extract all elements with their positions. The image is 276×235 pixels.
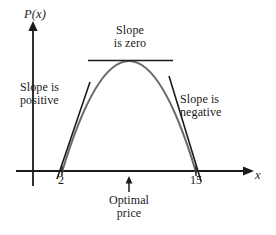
annotation-slope-positive: Slope is positive [20, 81, 78, 107]
annotation-slope-negative: Slope is negative [180, 93, 244, 119]
x-axis-arrowhead [243, 166, 254, 175]
x-axis-label: x [255, 169, 261, 183]
annotation-slope-zero: Slope is zero [99, 24, 161, 50]
y-axis-arrowhead [28, 21, 37, 31]
y-axis-label: P(x) [24, 8, 46, 22]
optimal-price-arrowhead [126, 176, 133, 184]
annotation-optimal-price: Optimal price [98, 194, 160, 220]
profit-curve [62, 61, 196, 172]
profit-curve-figure: P(x) x Slope is zero Slope is positive S… [0, 0, 276, 235]
optimal-price-arrow [126, 176, 133, 192]
x-tick-label-left: 2 [52, 174, 70, 187]
x-tick-label-right: 15 [186, 174, 206, 187]
